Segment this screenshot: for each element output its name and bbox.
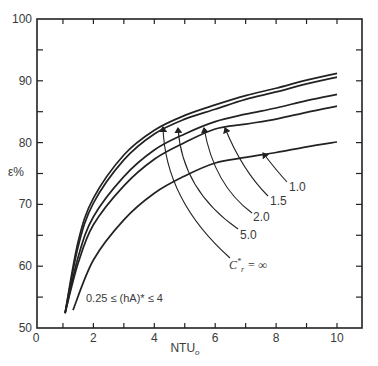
arrow-1-0 xyxy=(263,153,287,182)
range-annotation: 0.25 ≤ (hA)* ≤ 4 xyxy=(86,292,163,304)
curve-3 xyxy=(65,106,337,313)
x-tick-label: 8 xyxy=(273,331,280,345)
y-tick-label: 100 xyxy=(12,12,32,26)
y-tick-label: 90 xyxy=(19,74,33,88)
x-tick-label: 4 xyxy=(151,331,158,345)
arrow-5-0 xyxy=(178,128,238,229)
x-tick-label: 10 xyxy=(330,331,344,345)
x-tick-label: 6 xyxy=(212,331,219,345)
plot-border xyxy=(37,19,362,328)
arrow-1-5 xyxy=(225,128,268,196)
y-tick-label: 60 xyxy=(19,259,33,273)
x-tick-label: 2 xyxy=(90,331,97,345)
x-tick-label: 0 xyxy=(33,331,40,345)
x-axis-label: NTUo xyxy=(170,341,200,357)
effectiveness-chart: 02468105060708090100 ε% NTUo 0.25 ≤ (hA)… xyxy=(0,0,378,366)
y-tick-label: 50 xyxy=(19,321,33,335)
x-axis-label-subscript: o xyxy=(195,348,200,357)
arrow-infinity xyxy=(163,127,230,258)
axis-ticks: 02468105060708090100 xyxy=(12,12,362,345)
curve-label-5-0: 5.0 xyxy=(240,228,257,242)
y-axis-label: ε% xyxy=(8,165,24,179)
y-tick-label: 70 xyxy=(19,197,33,211)
curve-label-2-0: 2.0 xyxy=(253,210,270,224)
curve-label-1-0: 1.0 xyxy=(289,180,306,194)
label-arrows xyxy=(163,127,287,258)
y-tick-label: 80 xyxy=(19,136,33,150)
x-axis-label-main: NTU xyxy=(170,341,195,355)
arrow-2-0 xyxy=(204,128,252,213)
curve-2 xyxy=(65,94,337,313)
curve-label-infinity: C*r = ∞ xyxy=(229,257,267,274)
curve-1 xyxy=(65,77,337,313)
plot-frame xyxy=(37,19,362,328)
curve-label-1-5: 1.5 xyxy=(270,194,287,208)
